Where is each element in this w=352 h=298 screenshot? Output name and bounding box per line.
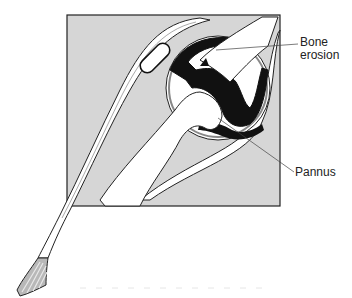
label-bone-erosion-line2: erosion xyxy=(300,49,339,62)
tendon-end xyxy=(17,258,48,296)
label-pannus: Pannus xyxy=(295,166,336,179)
label-bone-erosion: Bone erosion xyxy=(300,36,339,62)
